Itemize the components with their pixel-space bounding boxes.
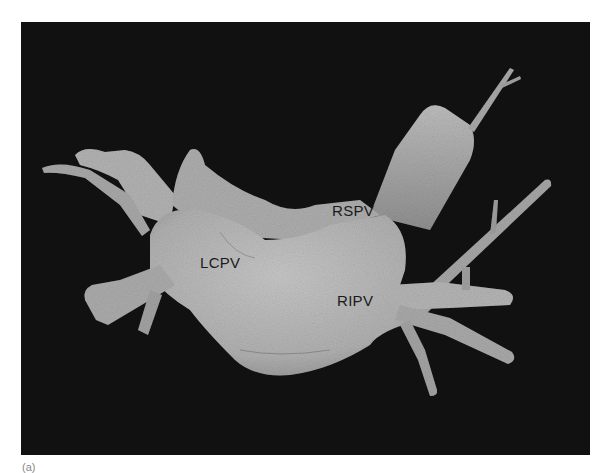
ripv-vessel-upper — [390, 282, 513, 310]
ripv-stub — [462, 267, 470, 290]
figure: RSPV LCPV RIPV (a) — [0, 0, 605, 473]
left-upper-vessel — [75, 149, 175, 225]
ripv-vessel-down — [400, 320, 437, 396]
label-rspv: RSPV — [332, 203, 374, 218]
atrium-structure — [42, 68, 551, 396]
label-lcpv: LCPV — [200, 255, 240, 270]
panel-letter: (a) — [22, 462, 35, 473]
atrium-rendering — [21, 22, 590, 455]
rendering-panel: RSPV LCPV RIPV — [21, 22, 590, 455]
label-ripv: RIPV — [337, 293, 373, 308]
rspv-vessel — [370, 105, 474, 230]
rspv-branch — [468, 68, 514, 132]
